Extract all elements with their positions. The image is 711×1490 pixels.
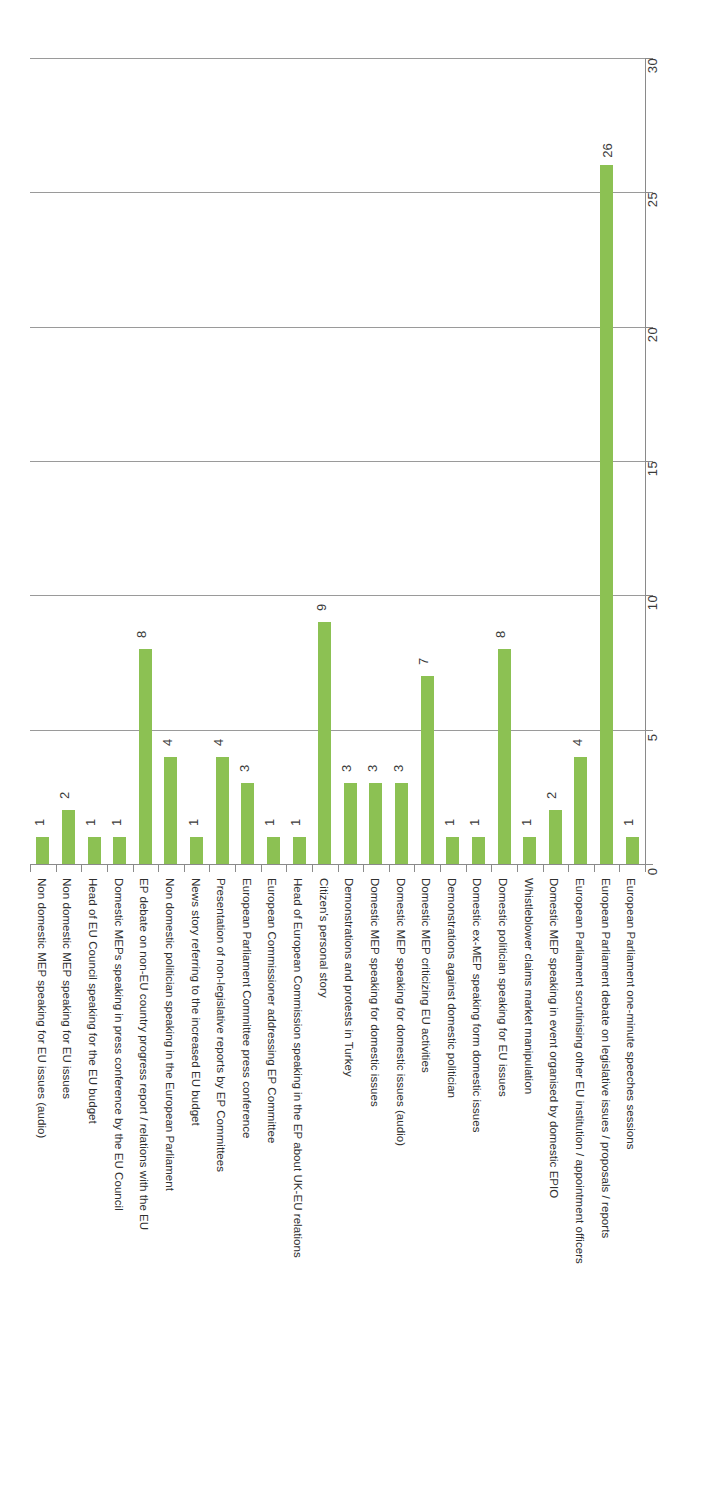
bar-value-label: 4 bbox=[570, 738, 585, 745]
bar bbox=[369, 783, 382, 864]
category-label: EP debate on non-EU country progress rep… bbox=[138, 878, 150, 1230]
bar bbox=[267, 837, 280, 864]
category-label: European Parliament debate on legislativ… bbox=[599, 878, 611, 1238]
bar-value-label: 9 bbox=[314, 604, 329, 611]
bar-chart-figure: 051015202530 1211841431193337118124261 N… bbox=[0, 0, 711, 1490]
bar bbox=[626, 837, 639, 864]
bar-value-label: 2 bbox=[544, 792, 559, 799]
category-label: Non domestic MEP speaking for EU issues bbox=[61, 878, 73, 1099]
bar bbox=[446, 837, 459, 864]
bar bbox=[241, 783, 254, 864]
bar bbox=[574, 757, 587, 864]
bar bbox=[549, 810, 562, 864]
bar-value-label: 3 bbox=[391, 765, 406, 772]
value-tick-0 bbox=[645, 864, 653, 865]
bar bbox=[498, 649, 511, 864]
value-tick-label-30: 30 bbox=[645, 58, 660, 73]
category-label: Whistleblower claims market manipulation bbox=[522, 878, 534, 1094]
value-tick-label-0: 0 bbox=[645, 868, 660, 876]
bar bbox=[344, 783, 357, 864]
bar-value-label: 3 bbox=[365, 765, 380, 772]
bar-value-label: 8 bbox=[134, 631, 149, 638]
category-tick bbox=[30, 864, 31, 872]
category-label: Citizen's personal story bbox=[317, 878, 329, 998]
bar bbox=[472, 837, 485, 864]
bar-value-label: 1 bbox=[186, 819, 201, 826]
plot-area bbox=[30, 58, 645, 864]
category-label: Presentation of non-legislative reports … bbox=[215, 878, 227, 1172]
category-tick bbox=[440, 864, 441, 872]
category-label: Domestic MEP speaking in event organised… bbox=[548, 878, 560, 1198]
gridline-30 bbox=[30, 58, 645, 59]
bar bbox=[190, 837, 203, 864]
bar bbox=[293, 837, 306, 864]
category-tick bbox=[107, 864, 108, 872]
value-tick-5 bbox=[645, 730, 653, 731]
category-tick bbox=[235, 864, 236, 872]
bar-value-label: 8 bbox=[493, 631, 508, 638]
category-label: European Parliament Committee press conf… bbox=[240, 878, 252, 1139]
category-tick bbox=[209, 864, 210, 872]
category-tick bbox=[184, 864, 185, 872]
category-tick bbox=[389, 864, 390, 872]
category-tick bbox=[466, 864, 467, 872]
category-tick bbox=[81, 864, 82, 872]
category-label: Demonstrations against domestic politici… bbox=[445, 878, 457, 1098]
category-label: Domestic politician speaking for EU issu… bbox=[497, 878, 509, 1097]
bar bbox=[600, 165, 613, 864]
bar-value-label: 4 bbox=[211, 738, 226, 745]
category-tick bbox=[645, 864, 646, 872]
bar bbox=[318, 622, 331, 864]
category-tick bbox=[338, 864, 339, 872]
category-tick bbox=[133, 864, 134, 872]
bar bbox=[36, 837, 49, 864]
bar-value-label: 1 bbox=[442, 819, 457, 826]
category-label: Non domestic politician speaking in the … bbox=[163, 878, 175, 1191]
bar bbox=[139, 649, 152, 864]
category-tick bbox=[619, 864, 620, 872]
value-tick-label-10: 10 bbox=[645, 595, 660, 610]
gridline-15 bbox=[30, 461, 645, 462]
category-label: European Parliament one-minute speeches … bbox=[625, 878, 637, 1150]
gridline-10 bbox=[30, 595, 645, 596]
category-tick bbox=[543, 864, 544, 872]
category-label: Demonstrations and protests in Turkey bbox=[343, 878, 355, 1077]
category-label: European Parliament scrutinising other E… bbox=[573, 878, 585, 1264]
category-label: European Commissioner addressing EP Comm… bbox=[266, 878, 278, 1143]
gridline-5 bbox=[30, 730, 645, 731]
category-tick bbox=[414, 864, 415, 872]
category-label: Head of EU Council speaking for the EU b… bbox=[87, 878, 99, 1124]
category-tick bbox=[286, 864, 287, 872]
category-tick bbox=[594, 864, 595, 872]
bar bbox=[421, 676, 434, 864]
bar-value-label: 1 bbox=[621, 819, 636, 826]
gridline-25 bbox=[30, 192, 645, 193]
category-label: Domestic MEP speaking for domestic issue… bbox=[368, 878, 380, 1107]
bar-value-label: 1 bbox=[83, 819, 98, 826]
bar-value-label: 3 bbox=[339, 765, 354, 772]
bar-value-label: 1 bbox=[468, 819, 483, 826]
bar bbox=[164, 757, 177, 864]
bar-value-label: 1 bbox=[109, 819, 124, 826]
category-tick bbox=[56, 864, 57, 872]
bar bbox=[113, 837, 126, 864]
category-label: Domestic MEPs speaking in press conferen… bbox=[112, 878, 124, 1211]
value-tick-label-15: 15 bbox=[645, 461, 660, 476]
category-label: Domestic ex-MEP speaking form domestic i… bbox=[471, 878, 483, 1133]
bar-value-label: 1 bbox=[32, 819, 47, 826]
category-tick bbox=[363, 864, 364, 872]
value-tick-label-25: 25 bbox=[645, 192, 660, 207]
bar bbox=[523, 837, 536, 864]
category-label: Head of European Commission speaking in … bbox=[292, 878, 304, 1258]
bar-value-label: 1 bbox=[263, 819, 278, 826]
bar-value-label: 1 bbox=[288, 819, 303, 826]
bar-value-label: 4 bbox=[160, 738, 175, 745]
bar bbox=[88, 837, 101, 864]
value-tick-label-5: 5 bbox=[645, 733, 660, 741]
category-label: Domestic MEP criticizing EU activities bbox=[420, 878, 432, 1073]
bar bbox=[62, 810, 75, 864]
category-label: Domestic MEP speaking for domestic issue… bbox=[394, 878, 406, 1146]
bar bbox=[216, 757, 229, 864]
bar-value-label: 2 bbox=[58, 792, 73, 799]
category-tick bbox=[491, 864, 492, 872]
